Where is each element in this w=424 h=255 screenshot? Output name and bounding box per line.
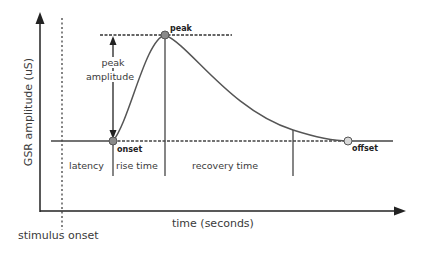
peak-point [161, 31, 169, 39]
offset-label: offset [352, 144, 378, 153]
rise-time-label: rise time [116, 160, 158, 171]
x-axis-label: time (seconds) [172, 217, 254, 230]
peak-amplitude-label-line2: amplitude [86, 71, 134, 82]
onset-point [109, 137, 117, 145]
y-axis-label: GSR amplitude (uS) [22, 58, 35, 166]
stimulus-onset-label: stimulus onset [18, 229, 99, 242]
onset-label: onset [117, 145, 142, 154]
peak-label: peak [170, 24, 192, 33]
y-axis-arrow-icon [36, 12, 45, 24]
x-axis-arrow-icon [394, 207, 406, 216]
peak-amplitude-label-line1: peak [96, 57, 130, 68]
latency-label: latency [69, 160, 104, 171]
arrow-up-icon [110, 36, 117, 45]
recovery-time-label: recovery time [192, 160, 258, 171]
offset-point [344, 137, 352, 145]
gsr-curve [113, 35, 348, 141]
